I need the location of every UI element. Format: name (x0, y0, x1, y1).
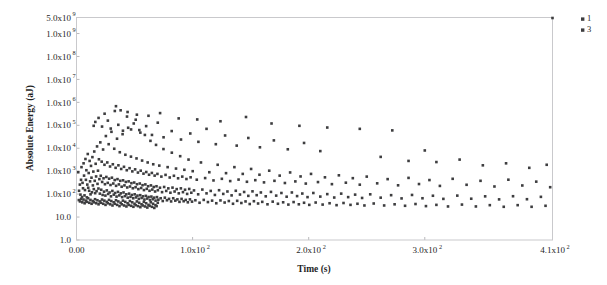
data-point (109, 127, 112, 130)
data-point (144, 134, 147, 137)
data-point (114, 192, 117, 195)
data-point (347, 196, 350, 199)
data-point (507, 178, 510, 181)
data-point (159, 112, 162, 115)
data-point (484, 195, 487, 198)
data-point (125, 169, 128, 172)
data-point (104, 204, 107, 207)
data-point (284, 182, 287, 185)
data-point (182, 191, 185, 194)
data-point (93, 201, 96, 204)
scatter-chart: 5.0x1091.0x1091.0x1081.0x1071.0x1061.0x1… (0, 0, 607, 285)
data-point (134, 204, 137, 207)
data-point (340, 192, 343, 195)
data-point (179, 155, 182, 158)
data-point (172, 197, 175, 200)
data-point (166, 166, 169, 169)
data-point (137, 205, 140, 208)
data-point (544, 204, 547, 207)
data-point (156, 173, 159, 176)
data-point (386, 178, 389, 181)
y-tick-label: 10.0 (55, 212, 71, 222)
data-point (161, 200, 164, 203)
data-point (117, 124, 120, 127)
data-point (222, 193, 225, 196)
data-point (138, 198, 141, 201)
data-point (333, 196, 336, 199)
data-point (298, 125, 301, 128)
data-point (151, 206, 154, 209)
data-point (85, 179, 88, 182)
data-point (177, 192, 180, 195)
data-point (208, 171, 211, 174)
y-tick-exponent: 9 (73, 26, 76, 33)
data-point (247, 195, 250, 198)
data-point (94, 121, 97, 124)
data-point (244, 200, 247, 203)
data-point (447, 205, 450, 208)
data-point (234, 189, 237, 192)
legend-label: 3 (587, 24, 591, 34)
data-point (383, 204, 386, 207)
data-point (99, 141, 102, 144)
data-point (232, 202, 235, 205)
data-point (321, 203, 324, 206)
data-point (110, 131, 113, 134)
data-point (100, 160, 103, 163)
data-point (143, 198, 146, 201)
data-point (127, 204, 130, 207)
data-point (102, 177, 105, 180)
y-tick-label: 1.0x10 (46, 189, 71, 199)
data-point (358, 128, 361, 131)
data-point (186, 193, 189, 196)
data-point (171, 186, 174, 189)
data-point (96, 145, 99, 148)
data-point (136, 194, 139, 197)
data-point (117, 200, 120, 203)
data-point (535, 180, 538, 183)
data-point (152, 186, 155, 189)
data-point (124, 153, 127, 156)
data-point (117, 164, 120, 167)
data-point (159, 186, 162, 189)
data-point (97, 169, 100, 172)
data-point (126, 186, 129, 189)
data-point (103, 163, 106, 166)
data-point (129, 185, 132, 188)
data-point (148, 204, 151, 207)
data-point (99, 174, 102, 177)
data-point (304, 182, 307, 185)
data-point (254, 179, 257, 182)
data-point (521, 184, 524, 187)
data-point (83, 194, 86, 197)
data-point (505, 162, 508, 165)
data-point (211, 199, 214, 202)
data-point (92, 184, 95, 187)
data-point (358, 183, 361, 186)
data-point (79, 200, 82, 203)
data-point (530, 206, 533, 209)
data-point (111, 190, 114, 193)
data-point (141, 184, 144, 187)
data-point (155, 144, 158, 147)
data-point (120, 185, 123, 188)
data-point (184, 199, 187, 202)
data-point (164, 196, 167, 199)
data-point (101, 198, 104, 201)
data-point (152, 202, 155, 205)
data-point (236, 200, 239, 203)
data-point (240, 202, 243, 205)
data-point (123, 184, 126, 187)
data-point (81, 182, 84, 185)
data-point (287, 148, 290, 151)
data-point (112, 182, 115, 185)
data-point (82, 198, 85, 201)
data-point (108, 199, 111, 202)
data-point (229, 180, 232, 183)
data-point (198, 201, 201, 204)
y-tick-label: 1.0x10 (46, 143, 71, 153)
data-point (425, 205, 428, 208)
data-point (282, 201, 285, 204)
data-point (289, 171, 292, 174)
data-point (101, 181, 104, 184)
